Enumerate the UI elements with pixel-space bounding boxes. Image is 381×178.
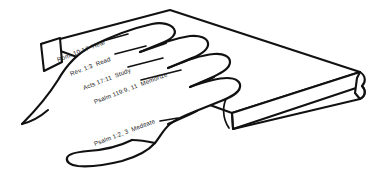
- book-corner-crease: [232, 113, 233, 129]
- illustration-canvas: Rom. 10:17 Hear Rev. 1:3 Read Acts 17:11…: [0, 0, 381, 178]
- hand-and-book-illustration: Rom. 10:17 Hear Rev. 1:3 Read Acts 17:11…: [0, 0, 381, 178]
